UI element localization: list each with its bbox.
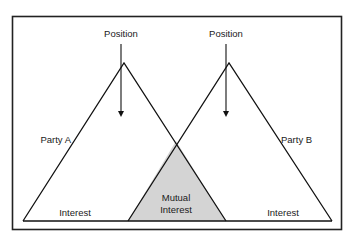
mutual-interest-label-line1: Mutual: [162, 192, 191, 203]
position-interest-diagram: Position Position Party A Party B Intere…: [0, 0, 352, 238]
party-a-position-label: Position: [104, 28, 138, 39]
party-b-position-label: Position: [209, 28, 243, 39]
party-a-label: Party A: [40, 134, 71, 145]
party-b-label: Party B: [281, 134, 312, 145]
party-b-interest-label: Interest: [267, 207, 299, 218]
party-a-interest-label: Interest: [59, 207, 91, 218]
mutual-interest-label-line2: Interest: [160, 204, 192, 215]
